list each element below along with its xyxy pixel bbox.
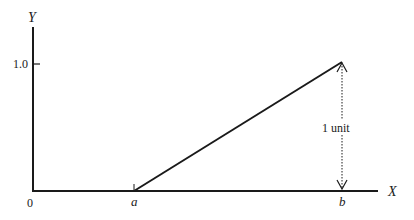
diagram-canvas: Y 1.0 0 a b X 1 unit [0,0,414,220]
x-axis-label: X [387,184,397,199]
unit-label: 1 unit [322,121,350,135]
point-a-label: a [131,194,138,209]
ramp-line [134,62,342,191]
y-tick-label: 1.0 [13,57,28,71]
point-b-label: b [339,194,346,209]
y-axis-label: Y [28,10,38,25]
origin-label: 0 [27,196,33,210]
